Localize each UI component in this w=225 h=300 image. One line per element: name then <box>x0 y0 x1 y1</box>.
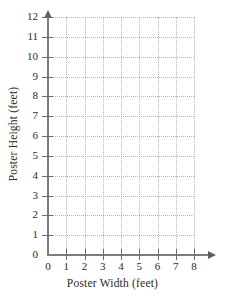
gridline-horizontal <box>48 136 194 137</box>
x-axis-tick <box>194 249 195 260</box>
y-axis-tick <box>42 17 53 18</box>
y-axis-tick <box>42 116 53 117</box>
gridline-horizontal <box>48 156 194 157</box>
y-axis-tick <box>42 77 53 78</box>
x-axis-tick <box>139 249 140 260</box>
gridline-horizontal <box>48 77 194 78</box>
gridline-horizontal <box>48 196 194 197</box>
x-axis-title: Poster Width (feet) <box>0 277 225 289</box>
plot-area <box>48 17 194 255</box>
y-axis-tick <box>42 156 53 157</box>
gridline-horizontal <box>48 37 194 38</box>
y-axis-tick <box>42 136 53 137</box>
y-axis-tick <box>42 196 53 197</box>
x-axis-tick <box>158 249 159 260</box>
y-axis-tick <box>42 215 53 216</box>
gridline-horizontal <box>48 96 194 97</box>
x-axis-tick <box>103 249 104 260</box>
x-axis-line <box>48 254 210 256</box>
gridline-horizontal <box>48 176 194 177</box>
x-axis-tick <box>66 249 67 260</box>
x-axis-tick <box>85 249 86 260</box>
x-axis-tick <box>176 249 177 260</box>
gridline-horizontal <box>48 235 194 236</box>
y-axis-tick <box>42 96 53 97</box>
graph-figure: 0123456789101112012345678 Poster Width (… <box>0 0 225 300</box>
y-axis-title: Poster Height (feet) <box>7 59 19 209</box>
gridline-horizontal <box>48 116 194 117</box>
y-axis-tick <box>42 176 53 177</box>
y-axis-tick <box>42 235 53 236</box>
x-axis-tick <box>121 249 122 260</box>
y-axis-tick <box>42 37 53 38</box>
y-axis-tick <box>42 57 53 58</box>
gridline-horizontal <box>48 215 194 216</box>
gridline-horizontal <box>48 17 194 18</box>
x-axis-arrow-icon <box>208 251 216 259</box>
gridline-horizontal <box>48 57 194 58</box>
gridline-vertical <box>194 17 195 255</box>
